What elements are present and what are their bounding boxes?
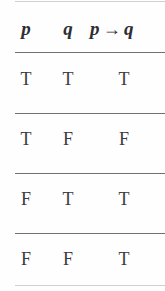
cell-p: F xyxy=(8,182,44,216)
cell-implication: T xyxy=(88,242,160,276)
table-row: T F F xyxy=(0,122,165,156)
table-row: F F T xyxy=(0,242,165,276)
header-cell-p: p xyxy=(8,12,44,46)
cell-p: F xyxy=(8,242,44,276)
table-top-rule xyxy=(15,1,165,2)
cell-implication: T xyxy=(88,62,160,96)
cell-implication: T xyxy=(88,182,160,216)
cell-q: T xyxy=(50,62,86,96)
table-row: T T T xyxy=(0,62,165,96)
cell-q: F xyxy=(50,242,86,276)
table-rule-row-divider xyxy=(15,113,165,114)
table-rule-row-divider xyxy=(15,173,165,174)
truth-table-figure: p q p→q T T T T F F F T T F F T xyxy=(0,0,165,291)
cell-p: T xyxy=(8,62,44,96)
table-rule-header-divider xyxy=(15,52,165,53)
cell-implication: F xyxy=(88,122,160,156)
table-header-row: p q p→q xyxy=(0,12,165,46)
implication-antecedent: p xyxy=(90,18,100,39)
cell-p: T xyxy=(8,122,44,156)
table-row: F T T xyxy=(0,182,165,216)
cell-q: T xyxy=(50,182,86,216)
table-rule-row-divider xyxy=(15,233,165,234)
implication-consequent: q xyxy=(124,18,134,39)
header-cell-q: q xyxy=(50,12,86,46)
cell-q: F xyxy=(50,122,86,156)
header-cell-implication: p→q xyxy=(88,12,165,46)
table-bottom-rule xyxy=(15,285,165,286)
right-arrow-icon: → xyxy=(100,12,124,46)
